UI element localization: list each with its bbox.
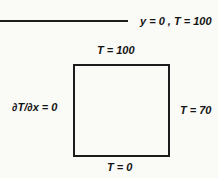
- top-line-label: y = 0 , T = 100: [140, 16, 212, 27]
- square-bottom-boundary-label: T = 0: [107, 162, 132, 173]
- square-right-boundary-label: T = 70: [180, 105, 212, 116]
- square-left-boundary-label: ∂T/∂x = 0: [12, 102, 57, 113]
- top-boundary-line: [0, 20, 128, 22]
- domain-square: [73, 64, 170, 157]
- square-top-boundary-label: T = 100: [97, 45, 135, 56]
- boundary-condition-diagram: y = 0 , T = 100 T = 100 ∂T/∂x = 0 T = 70…: [0, 0, 218, 178]
